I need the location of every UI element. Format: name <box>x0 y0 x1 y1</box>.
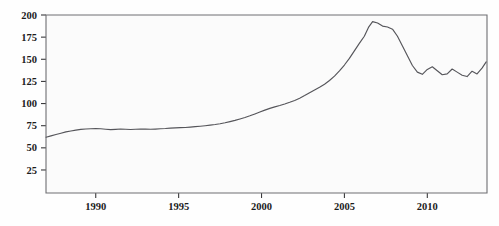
y-axis-tick-label: 150 <box>21 54 37 65</box>
y-axis-tick-label: 175 <box>21 32 37 43</box>
y-axis-tick-label: 50 <box>27 142 38 153</box>
x-axis-tick-label: 2000 <box>251 201 272 212</box>
y-axis-tick-label: 200 <box>21 10 37 21</box>
y-axis-tick-label: 100 <box>21 98 37 109</box>
x-axis-tick-label: 1995 <box>168 201 189 212</box>
y-axis-tick-label: 125 <box>21 76 37 87</box>
x-axis-tick-label: 2005 <box>334 201 355 212</box>
y-axis-tick-label: 75 <box>27 120 38 131</box>
y-axis-tick-label: 25 <box>27 165 38 176</box>
plot-area <box>46 15 487 193</box>
line-chart: 255075100125150175200 199019952000200520… <box>0 0 499 226</box>
chart-container: 255075100125150175200 199019952000200520… <box>0 0 499 226</box>
x-axis-tick-label: 2010 <box>417 201 438 212</box>
x-axis-tick-label: 1990 <box>85 201 106 212</box>
